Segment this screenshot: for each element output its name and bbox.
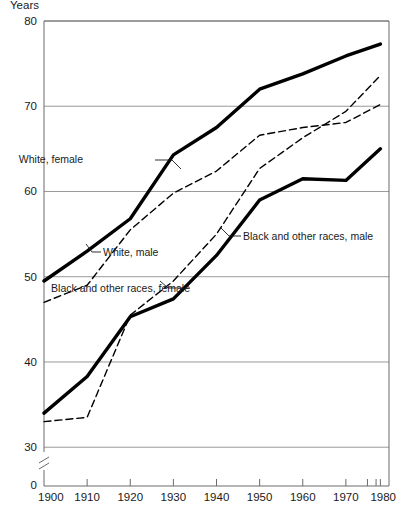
y-tick-label-40: 40 <box>24 356 37 368</box>
x-tick-label-1910: 1910 <box>74 491 100 503</box>
series-line-1 <box>44 105 380 303</box>
y-axis-unit-label: Years <box>10 0 39 11</box>
x-tick-label-1900: 1900 <box>38 491 64 503</box>
series-label-2: Black and other races, male <box>243 230 373 242</box>
x-tick-label-1950: 1950 <box>247 491 273 503</box>
y-tick-label-60: 60 <box>24 185 37 197</box>
chart-canvas: Years30405060708001900191019201930194019… <box>0 0 409 524</box>
y-tick-label-zero: 0 <box>31 479 37 491</box>
x-tick-label-1970: 1970 <box>333 491 359 503</box>
series-label-1: White, male <box>103 246 159 258</box>
y-axis-break-marker <box>39 457 49 469</box>
series-line-3 <box>44 76 380 422</box>
y-tick-label-80: 80 <box>24 15 37 27</box>
series-label-3: Black and other races, female <box>51 282 190 294</box>
y-tick-label-50: 50 <box>24 271 37 283</box>
series-line-2 <box>44 149 380 413</box>
series-line-0 <box>44 44 380 281</box>
x-tick-label-1960: 1960 <box>290 491 316 503</box>
y-tick-label-70: 70 <box>24 100 37 112</box>
y-tick-label-30: 30 <box>24 441 37 453</box>
x-tick-label-1920: 1920 <box>117 491 143 503</box>
x-tick-label-1940: 1940 <box>204 491 230 503</box>
x-tick-label-1980: 1980 <box>370 491 396 503</box>
x-tick-label-1930: 1930 <box>161 491 187 503</box>
life-expectancy-chart: Years30405060708001900191019201930194019… <box>0 0 409 524</box>
series-label-0: White, female <box>19 153 83 165</box>
